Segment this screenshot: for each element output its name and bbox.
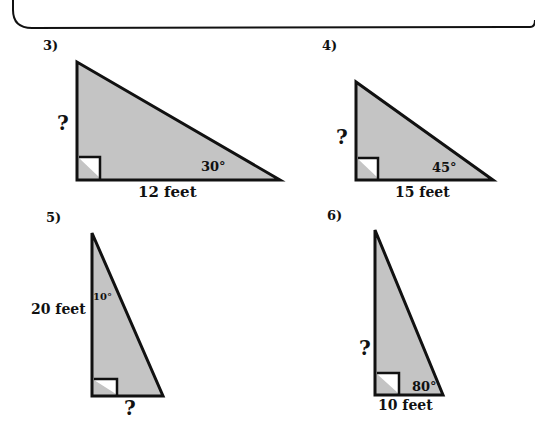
triangle-6 [375, 230, 443, 396]
unknown-side-label: ? [57, 113, 69, 133]
known-side-label: 12 feet [138, 185, 197, 200]
angle-label: 80° [412, 380, 437, 393]
problem-number: 4) [322, 39, 337, 52]
angle-label: 10° [93, 292, 112, 302]
unknown-side-label: ? [359, 338, 371, 358]
triangle-4 [356, 82, 493, 180]
known-side-label: 10 feet [378, 398, 433, 412]
unknown-side-label: ? [336, 127, 348, 147]
answer-box-border [13, 0, 535, 28]
triangle-5 [92, 233, 163, 397]
problem-number: 3) [43, 39, 58, 52]
known-side-label: 15 feet [395, 185, 450, 199]
problem-number: 5) [46, 211, 61, 224]
angle-label: 45° [432, 161, 457, 174]
problem-number: 6) [327, 209, 342, 222]
triangle-3 [77, 62, 280, 180]
unknown-side-label: ? [124, 398, 136, 418]
worksheet-figures [0, 0, 535, 447]
known-side-label: 20 feet [31, 302, 86, 316]
angle-label: 30° [201, 160, 226, 173]
